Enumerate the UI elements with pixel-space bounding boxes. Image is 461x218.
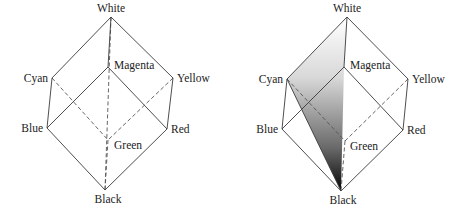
label-green: Green <box>114 139 142 151</box>
label-magenta: Magenta <box>114 59 154 72</box>
gray-scale-plane <box>287 17 347 191</box>
main-diagonal-line <box>105 17 111 190</box>
edge-magenta-red <box>344 67 403 130</box>
edge-cyan-blue <box>282 79 287 129</box>
label-white: White <box>333 2 361 14</box>
hidden-edge-cyan-green <box>52 78 108 140</box>
label-cyan: Cyan <box>259 73 284 86</box>
left-cube: White Magenta Cyan Yellow Blue Red Green… <box>21 2 210 205</box>
hidden-edge-yellow-green <box>345 79 408 141</box>
label-black: Black <box>330 194 357 206</box>
edge-yellow-red <box>167 78 173 129</box>
hidden-edge-yellow-green <box>108 78 173 140</box>
edge-cyan-blue <box>47 78 52 128</box>
label-blue: Blue <box>256 123 278 135</box>
edge-magenta-blue <box>47 67 108 128</box>
label-magenta: Magenta <box>350 59 390 72</box>
edge-magenta-red <box>108 67 167 129</box>
label-white: White <box>97 2 125 14</box>
label-cyan: Cyan <box>24 72 49 85</box>
label-black: Black <box>95 193 122 205</box>
label-blue: Blue <box>21 122 43 134</box>
edge-white-cyan <box>52 17 111 78</box>
label-green: Green <box>350 140 378 152</box>
label-red: Red <box>407 124 426 136</box>
label-yellow: Yellow <box>412 73 445 85</box>
right-cube: White Magenta Cyan Yellow Blue Red Green… <box>256 2 445 206</box>
edge-blue-black <box>47 128 105 190</box>
label-red: Red <box>171 123 190 135</box>
edge-yellow-red <box>403 79 408 130</box>
rgb-cube-diagram: White Magenta Cyan Yellow Blue Red Green… <box>0 0 461 218</box>
label-yellow: Yellow <box>177 72 210 84</box>
